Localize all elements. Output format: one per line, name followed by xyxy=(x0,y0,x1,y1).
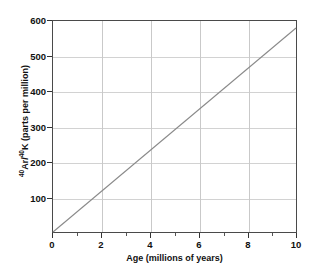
y-tick-mark-400 xyxy=(47,91,52,92)
x-tick-label-4: 4 xyxy=(135,240,165,250)
x-tick-mark-minor-9 xyxy=(272,233,273,236)
x-tick-mark-minor-1 xyxy=(77,233,78,236)
x-tick-mark-minor-3 xyxy=(126,233,127,236)
x-tick-label-0: 0 xyxy=(37,240,67,250)
y-tick-mark-300 xyxy=(47,127,52,128)
chart-figure: 600 500 400 300 200 100 0 2 4 6 8 10 Age… xyxy=(0,0,318,273)
y-tick-mark-600 xyxy=(47,20,52,21)
x-tick-mark-0 xyxy=(52,233,53,238)
y-axis-title: 40Ar/40K (parts per million) xyxy=(20,14,30,229)
plot-area xyxy=(52,20,297,233)
x-tick-label-2: 2 xyxy=(86,240,116,250)
y-axis-title-sup-2: 40 xyxy=(20,150,30,157)
y-tick-mark-100 xyxy=(47,198,52,199)
x-tick-mark-6 xyxy=(199,233,200,238)
y-tick-mark-500 xyxy=(47,56,52,57)
x-tick-label-6: 6 xyxy=(184,240,214,250)
x-tick-label-10: 10 xyxy=(281,240,311,250)
x-tick-mark-2 xyxy=(101,233,102,238)
x-tick-mark-minor-5 xyxy=(175,233,176,236)
y-axis-title-sup-1: 40 xyxy=(20,170,30,177)
y-axis-title-mid-2: K (parts per million) xyxy=(20,65,30,150)
x-axis-title: Age (millions of years) xyxy=(52,253,297,263)
y-tick-mark-200 xyxy=(47,162,52,163)
x-tick-mark-minor-7 xyxy=(224,233,225,236)
x-tick-label-8: 8 xyxy=(233,240,263,250)
data-series-line xyxy=(53,21,296,232)
x-tick-mark-8 xyxy=(248,233,249,238)
x-tick-mark-10 xyxy=(296,233,297,238)
x-tick-mark-4 xyxy=(150,233,151,238)
y-axis-title-mid-1: Ar/ xyxy=(20,157,30,170)
